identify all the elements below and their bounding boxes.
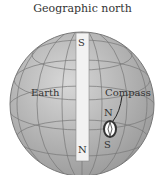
compass-label: Compass bbox=[105, 87, 151, 98]
earth-label: Earth bbox=[31, 87, 60, 98]
compass-south-label: S bbox=[104, 139, 111, 150]
compass-north-label: N bbox=[104, 107, 113, 118]
magnet-south-label: S bbox=[78, 37, 85, 48]
bar-magnet bbox=[76, 33, 89, 161]
magnet-north-label: N bbox=[78, 144, 87, 155]
